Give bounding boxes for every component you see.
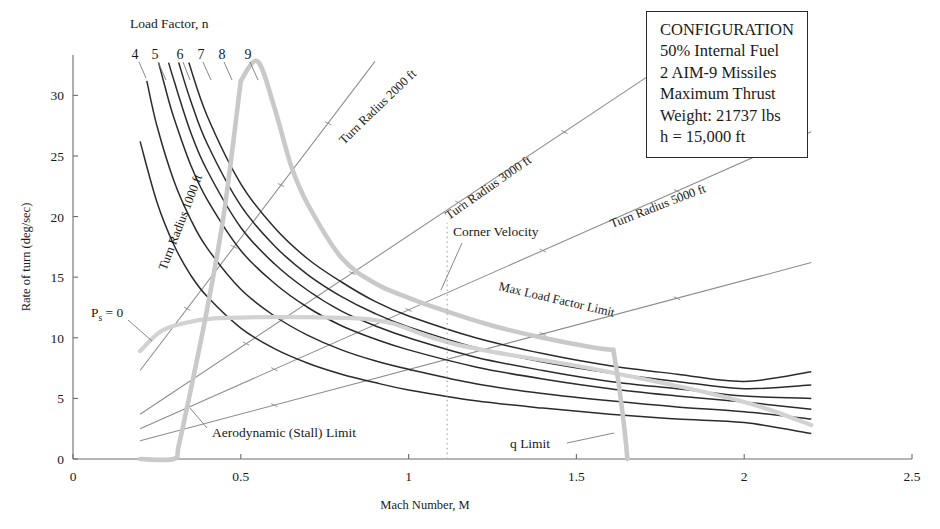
load-factor-title: Load Factor, n <box>130 16 209 31</box>
leader-q-limit <box>567 433 614 443</box>
corner-velocity-label: Corner Velocity <box>453 224 539 239</box>
configuration-line-thrust: Maximum Thrust <box>660 83 794 104</box>
n-label-5: 5 <box>152 47 159 62</box>
y-tick-label: 30 <box>51 88 65 103</box>
configuration-line-altitude: h = 15,000 ft <box>660 126 794 147</box>
turn-radius-5000-label: Turn Radius 5000 ft <box>608 181 708 231</box>
x-tick-label: 1 <box>405 469 412 484</box>
max-load-factor-limit-label: Max Load Factor Limit <box>497 279 616 319</box>
stall-limit-boundary <box>140 81 241 460</box>
n-label-8: 8 <box>219 47 226 62</box>
n-label-9: 9 <box>245 47 252 62</box>
turn-radius-tick <box>325 122 331 125</box>
q-limit-boundary <box>613 350 627 459</box>
leader-ps-zero <box>128 320 152 341</box>
stall-limit-label: Aerodynamic (Stall) Limit <box>212 425 356 440</box>
configuration-box: CONFIGURATION 50% Internal Fuel 2 AIM-9 … <box>646 11 808 158</box>
x-tick-label: 2 <box>741 469 748 484</box>
configuration-line-fuel: 50% Internal Fuel <box>660 40 794 61</box>
q-limit-label: q Limit <box>510 436 550 451</box>
leader-n-8 <box>224 62 232 80</box>
y-tick-label: 0 <box>57 452 64 467</box>
y-tick-label: 20 <box>51 210 65 225</box>
turn-radius-2000-label: Turn Radius 2000 ft <box>336 66 419 147</box>
x-axis-title: Mach Number, M <box>380 498 469 512</box>
chart-root: 00.511.522.5 051015202530 Rate of turn (… <box>0 0 940 529</box>
y-axis-title: Rate of turn (deg/sec) <box>19 203 33 312</box>
y-axis-ticks: 051015202530 <box>51 88 79 467</box>
configuration-title: CONFIGURATION <box>660 19 794 40</box>
turn-radius-tick <box>278 183 284 186</box>
n-label-4: 4 <box>132 47 139 62</box>
x-tick-label: 2.5 <box>904 469 921 484</box>
x-tick-label: 0.5 <box>232 469 249 484</box>
leader-n-7 <box>203 62 211 80</box>
configuration-line-weight: Weight: 21737 lbs <box>660 105 794 126</box>
x-tick-label: 0 <box>70 469 77 484</box>
configuration-line-missiles: 2 AIM-9 Missiles <box>660 62 794 83</box>
load-factor-curve <box>140 141 811 433</box>
turn-radius-3000-label: Turn Radius 3000 ft <box>443 153 534 223</box>
turn-radius-tick <box>184 307 190 310</box>
y-tick-label: 5 <box>57 391 64 406</box>
flight-envelope-boundary <box>140 61 627 460</box>
y-tick-label: 10 <box>51 331 65 346</box>
n-label-6: 6 <box>177 47 184 62</box>
leader-corner-velocity <box>441 243 462 290</box>
n-label-7: 7 <box>198 47 205 62</box>
ps-zero-label: Ps = 0 <box>91 305 124 323</box>
y-tick-label: 15 <box>51 270 65 285</box>
leader-n-4 <box>139 62 146 78</box>
y-tick-label: 25 <box>51 149 65 164</box>
x-tick-label: 1.5 <box>568 469 585 484</box>
leader-n-9 <box>250 62 258 80</box>
